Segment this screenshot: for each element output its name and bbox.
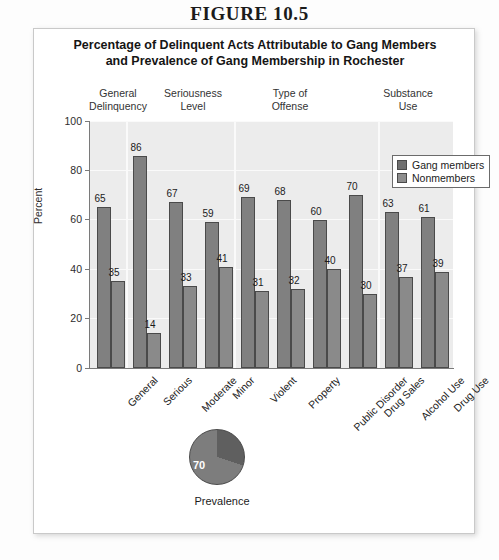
legend: Gang members Nonmembers [392, 155, 490, 188]
bar-value-moderate-gang: 67 [158, 188, 186, 199]
group-header-type-of-offense: Type of Offense [250, 87, 330, 112]
group-separator-1 [126, 121, 128, 368]
legend-swatch-gang-members [397, 160, 407, 170]
figure-number-label: FIGURE 10.5 [0, 3, 499, 25]
legend-label-nonmembers: Nonmembers [412, 172, 475, 184]
bar-serious-nonmember [147, 333, 161, 368]
group-separator-3 [378, 121, 380, 368]
bar-value-drug-sales-gang: 70 [338, 181, 366, 192]
bar-general-nonmember [111, 281, 125, 368]
bar-value-alcohol-use-nonmember: 37 [388, 263, 416, 274]
y-tick-mark-20 [85, 318, 89, 319]
bar-minor-nonmember [219, 267, 233, 368]
bar-value-drug-sales-nonmember: 30 [352, 280, 380, 291]
bar-drug-sales-nonmember [363, 294, 377, 368]
chart-title-line-2: and Prevalence of Gang Membership in Roc… [48, 53, 462, 69]
y-tick-label-0: 0 [52, 362, 82, 374]
pie-slice-value-label: 70 [193, 459, 205, 471]
bar-public-disorder-gang [313, 220, 327, 368]
bar-moderate-gang [169, 202, 183, 368]
chart-title-line-1: Percentage of Delinquent Acts Attributab… [48, 37, 462, 53]
bar-value-general-nonmember: 35 [100, 267, 128, 278]
y-tick-mark-60 [85, 219, 89, 220]
bar-drug-use-nonmember [435, 272, 449, 368]
chart-title: Percentage of Delinquent Acts Attributab… [48, 37, 462, 69]
x-tick-label-general: General [125, 374, 160, 409]
figure-card: Percentage of Delinquent Acts Attributab… [33, 28, 475, 534]
bar-property-nonmember [291, 289, 305, 368]
y-tick-label-100: 100 [52, 115, 82, 127]
legend-label-gang-members: Gang members [412, 159, 484, 171]
bar-minor-gang [205, 222, 219, 368]
bar-value-violent-gang: 69 [230, 183, 258, 194]
bar-value-violent-nonmember: 31 [244, 277, 272, 288]
legend-item-gang-members: Gang members [397, 158, 484, 171]
pie-circle [189, 429, 245, 485]
y-tick-mark-80 [85, 170, 89, 171]
bar-general-gang [97, 207, 111, 368]
y-tick-label-60: 60 [52, 213, 82, 225]
bar-alcohol-use-gang [385, 212, 399, 368]
bar-public-disorder-nonmember [327, 269, 341, 368]
group-header-substance-use: Substance Use [368, 87, 448, 112]
bar-value-drug-use-nonmember: 39 [424, 258, 452, 269]
x-tick-label-serious: Serious [160, 374, 194, 408]
group-header-seriousness-level: Seriousness Level [150, 87, 236, 112]
figure-page: FIGURE 10.5 Percentage of Delinquent Act… [0, 0, 499, 560]
y-axis-line [89, 121, 90, 369]
bar-value-minor-nonmember: 41 [208, 253, 236, 264]
x-tick-label-violent: Violent [267, 374, 298, 405]
bar-moderate-nonmember [183, 286, 197, 368]
bar-value-property-gang: 68 [266, 186, 294, 197]
group-separator-2 [234, 121, 236, 368]
y-tick-label-20: 20 [52, 312, 82, 324]
bar-alcohol-use-nonmember [399, 277, 413, 368]
bar-drug-use-gang [421, 217, 435, 368]
legend-swatch-nonmembers [397, 173, 407, 183]
bar-value-drug-use-gang: 61 [410, 203, 438, 214]
bar-violent-nonmember [255, 291, 269, 368]
bar-value-public-disorder-gang: 60 [302, 206, 330, 217]
bar-value-moderate-nonmember: 33 [172, 272, 200, 283]
group-header-general-delinquency: General Delinquency [78, 87, 158, 112]
y-tick-mark-0 [85, 368, 89, 369]
y-tick-label-80: 80 [52, 164, 82, 176]
x-axis-line [89, 368, 454, 369]
y-tick-mark-40 [85, 269, 89, 270]
bar-value-general-gang: 65 [86, 193, 114, 204]
bar-serious-gang [133, 156, 147, 368]
bar-value-serious-gang: 86 [122, 142, 150, 153]
plot-area: Gang members Nonmembers [90, 121, 453, 368]
legend-item-nonmembers: Nonmembers [397, 171, 484, 184]
pie-caption: Prevalence [162, 495, 282, 507]
prevalence-pie-chart: 70 Prevalence [162, 429, 282, 521]
y-tick-mark-100 [85, 121, 89, 122]
x-tick-label-property: Property [306, 374, 343, 411]
bar-value-property-nonmember: 32 [280, 275, 308, 286]
bar-value-minor-gang: 59 [194, 208, 222, 219]
bar-value-alcohol-use-gang: 63 [374, 198, 402, 209]
bar-value-public-disorder-nonmember: 40 [316, 255, 344, 266]
y-axis-label: Percent [32, 188, 44, 224]
bar-value-serious-nonmember: 14 [136, 319, 164, 330]
y-tick-label-40: 40 [52, 263, 82, 275]
gridline-100 [90, 121, 453, 122]
